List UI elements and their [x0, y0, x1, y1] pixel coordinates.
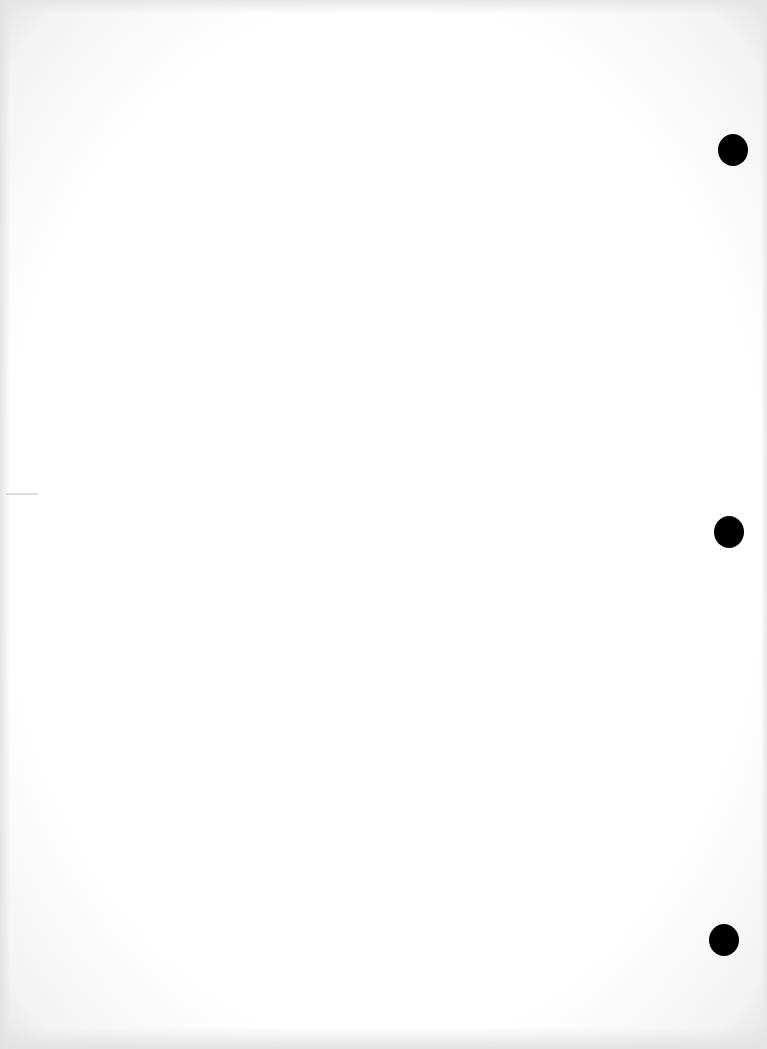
punch-hole-top [718, 134, 748, 166]
page-edge-right [761, 0, 767, 1049]
punch-hole-bottom [709, 924, 739, 956]
paper-crease-mark [6, 493, 38, 495]
scanned-page [0, 0, 767, 1049]
page-edge-left [0, 0, 10, 1049]
punch-hole-middle [714, 516, 744, 548]
page-edge-top [0, 0, 767, 14]
page-edge-bottom [0, 1027, 767, 1049]
